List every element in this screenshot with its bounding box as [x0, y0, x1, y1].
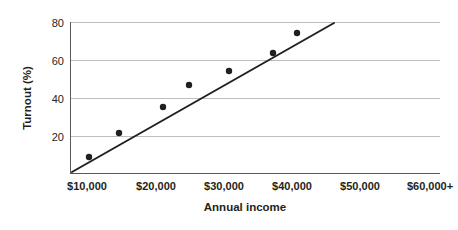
data-point — [116, 130, 122, 136]
x-tick-label-10000: $10,000 — [67, 180, 107, 192]
chart-figure: 80 60 40 20 $10,000 $20,000 $30,000 $40,… — [0, 0, 458, 230]
data-point — [86, 154, 92, 160]
data-points — [86, 30, 300, 160]
trend-line — [72, 23, 334, 172]
gridlines — [70, 23, 440, 137]
x-tick-label-50000: $50,000 — [340, 180, 380, 192]
y-tick-label-80: 80 — [52, 17, 64, 29]
data-point — [270, 50, 276, 56]
data-point — [186, 82, 192, 88]
data-point — [160, 104, 166, 110]
y-tick-label-60: 60 — [52, 55, 64, 67]
x-tick-label-60000plus: $60,000+ — [407, 180, 453, 192]
x-tick-labels: $10,000 $20,000 $30,000 $40,000 $50,000 … — [67, 180, 453, 192]
y-tick-label-40: 40 — [52, 93, 64, 105]
axes — [70, 22, 440, 174]
y-axis-title: Turnout (%) — [21, 66, 33, 130]
data-point — [226, 68, 232, 74]
data-point — [294, 30, 300, 36]
scatter-plot-svg: 80 60 40 20 $10,000 $20,000 $30,000 $40,… — [0, 0, 458, 230]
x-tick-label-20000: $20,000 — [136, 180, 176, 192]
y-tick-label-20: 20 — [52, 131, 64, 143]
y-tick-labels: 80 60 40 20 — [52, 17, 64, 143]
x-tick-label-40000: $40,000 — [272, 180, 312, 192]
x-axis-title: Annual income — [204, 201, 286, 213]
x-tick-label-30000: $30,000 — [204, 180, 244, 192]
